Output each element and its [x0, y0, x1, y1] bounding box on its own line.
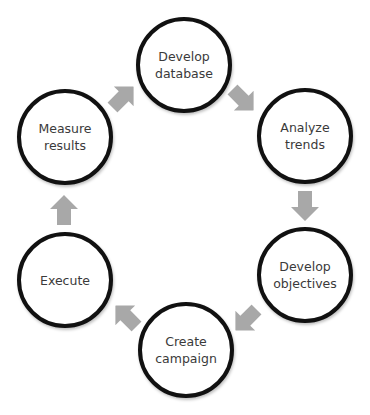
- arrow-database-to-trends-icon: [222, 79, 263, 120]
- node-label: Create campaign: [155, 333, 217, 367]
- node-create-campaign: Create campaign: [138, 302, 234, 398]
- node-analyze-trends: Analyze trends: [257, 88, 353, 184]
- node-measure-results: Measure results: [17, 89, 113, 185]
- cycle-diagram: Develop database Analyze trends Develop …: [0, 0, 370, 415]
- node-label: Execute: [40, 272, 90, 289]
- arrow-execute-to-measure-icon: [50, 195, 78, 225]
- arrow-campaign-to-execute-icon: [105, 295, 146, 336]
- node-execute: Execute: [17, 232, 113, 328]
- arrow-trends-to-objectives-icon: [291, 191, 319, 221]
- node-label: Develop database: [155, 48, 213, 82]
- arrow-measure-to-database-icon: [102, 76, 143, 117]
- node-label: Develop objectives: [273, 258, 337, 292]
- node-label: Measure results: [38, 120, 91, 154]
- node-develop-database: Develop database: [136, 17, 232, 113]
- node-label: Analyze trends: [280, 119, 329, 153]
- node-develop-objectives: Develop objectives: [257, 227, 353, 323]
